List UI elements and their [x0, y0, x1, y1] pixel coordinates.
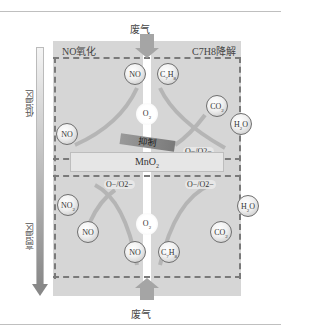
- molecule-h2o: H2O: [230, 113, 252, 135]
- molecule-o2: O2: [136, 213, 158, 235]
- molecule-h2o: H2O: [237, 195, 259, 217]
- molecule-no: NO: [77, 221, 99, 243]
- catalyst-mno2: MnO2: [70, 152, 224, 172]
- active-oxygen-species-left: O−/O2−: [104, 180, 135, 189]
- molecule-no: NO: [124, 63, 146, 85]
- molecule-c7h8: C7H8: [157, 63, 179, 85]
- molecule-no: NO: [124, 241, 146, 263]
- molecule-co2: CO2: [206, 95, 228, 117]
- molecule-no: NO: [56, 123, 78, 145]
- molecule-o2: O2: [136, 103, 158, 125]
- molecule-no2: NO2: [57, 194, 79, 216]
- molecule-co2: CO2: [210, 221, 232, 243]
- molecule-c7h8: C7H8: [158, 241, 180, 263]
- active-oxygen-species-right: O−/O2−: [185, 180, 216, 189]
